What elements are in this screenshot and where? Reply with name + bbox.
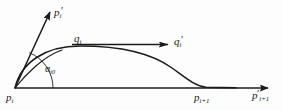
label-p-prime-i-plus-1-sub: i+1 xyxy=(259,95,269,102)
label-p-i: pi xyxy=(6,92,13,105)
label-p-prime-i: pi′ xyxy=(54,6,63,20)
tangent-vector-p-prime-i xyxy=(15,12,50,88)
vector-curve-diagram: pi′ qi qi′ αi0 pi pi+1 p′i+1 xyxy=(0,0,282,111)
label-p-i-sub: i xyxy=(12,97,14,104)
label-p-prime-i-plus-1: p′i+1 xyxy=(252,89,269,103)
label-q-i-sub: i xyxy=(80,38,82,45)
label-alpha-sub: i0 xyxy=(50,68,55,75)
label-q-prime-i-prime: ′ xyxy=(181,34,183,45)
label-q-i: qi xyxy=(74,33,81,46)
label-q-prime-i: qi′ xyxy=(174,35,183,49)
label-alpha-angle: αi0 xyxy=(45,64,55,75)
diagram-canvas xyxy=(0,0,282,111)
label-p-prime-i-prime: ′ xyxy=(61,5,63,16)
label-p-i-plus-1: pi+1 xyxy=(194,92,209,105)
label-p-i-plus-1-sub: i+1 xyxy=(200,97,210,104)
